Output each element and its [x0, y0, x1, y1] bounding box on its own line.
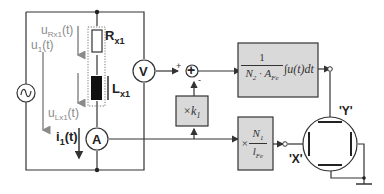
summer-plus: +: [176, 62, 181, 71]
summer-symbol: +: [187, 63, 195, 77]
i1-label: i1(t): [56, 130, 78, 147]
scale-times: ×: [241, 138, 248, 149]
y-channel-label: 'Y': [339, 105, 353, 117]
resistor-label: Rx1: [105, 29, 124, 46]
ammeter-label: A: [92, 133, 101, 146]
diagram-canvas: uRx1(t) u1(t) uLx1(t) i1(t) Rx1 Lx1 V A …: [0, 0, 384, 194]
u1-label: u1(t): [31, 39, 53, 54]
inductor-label: Lx1: [112, 82, 130, 99]
integral-expression: ∫u(t)dt: [284, 63, 314, 75]
scale-fraction: N1 lFe: [249, 128, 267, 160]
gain-k1-label: ×k1: [183, 105, 200, 120]
u-lx1-label: uLx1(t): [48, 107, 79, 122]
summer-minus: -: [198, 76, 201, 85]
voltmeter-label: V: [139, 65, 148, 78]
x-channel-label: 'X': [289, 153, 303, 165]
integrator-gain: 1 N2 · AFe: [241, 52, 283, 82]
